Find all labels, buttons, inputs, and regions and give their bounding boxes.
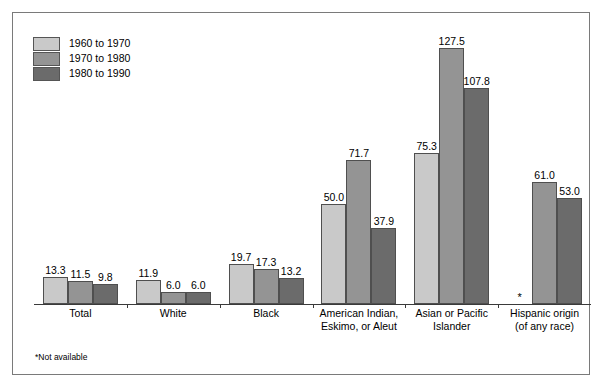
category-label: White: [127, 307, 220, 332]
axis-tick: [498, 304, 499, 308]
bar[interactable]: [439, 48, 464, 304]
category-label-line: White: [127, 307, 220, 320]
bar-slot: 6.0: [186, 33, 211, 304]
bar-groups: 13.311.59.811.96.06.019.717.313.250.071.…: [34, 33, 591, 304]
bar-slot: 127.5: [439, 33, 464, 304]
not-available-marker: *: [517, 292, 521, 303]
bar-slot: 6.0: [161, 33, 186, 304]
bar-value-label: 6.0: [191, 280, 206, 291]
bar-value-label: 127.5: [439, 36, 465, 47]
bar-slot: 71.7: [346, 33, 371, 304]
axis-tick: [313, 304, 314, 308]
bar-slot: *: [507, 33, 532, 304]
bar-slot: 9.8: [93, 33, 118, 304]
bar[interactable]: [464, 88, 489, 304]
category-label-line: Total: [34, 307, 127, 320]
bar[interactable]: [346, 160, 371, 304]
bar-slot: 37.9: [371, 33, 396, 304]
bar[interactable]: [279, 278, 304, 304]
bar-slot: 13.3: [43, 33, 68, 304]
bar-group: 19.717.313.2: [220, 33, 313, 304]
bar[interactable]: [532, 182, 557, 304]
bar[interactable]: [161, 292, 186, 304]
bar-slot: 50.0: [321, 33, 346, 304]
bar[interactable]: [229, 264, 254, 304]
bar[interactable]: [43, 277, 68, 304]
bar-value-label: 50.0: [324, 192, 344, 203]
bar-group: 50.071.737.9: [312, 33, 405, 304]
category-label: Total: [34, 307, 127, 332]
bar-value-label: 11.5: [71, 269, 91, 280]
bar[interactable]: [321, 204, 346, 304]
bar[interactable]: [93, 284, 118, 304]
category-label-line: Islander: [405, 320, 498, 333]
bar-slot: 61.0: [532, 33, 557, 304]
category-label: Hispanic origin(of any race): [498, 307, 591, 332]
bar[interactable]: [68, 281, 93, 304]
category-label: Black: [220, 307, 313, 332]
bar-slot: 107.8: [464, 33, 489, 304]
bar-value-label: 37.9: [374, 216, 394, 227]
chart-frame: 1960 to 1970 1970 to 1980 1980 to 1990 1…: [12, 12, 590, 375]
bar[interactable]: [414, 153, 439, 304]
bar[interactable]: [557, 198, 582, 304]
chart-footnote: *Not available: [35, 353, 87, 362]
category-label-line: Asian or Pacific: [405, 307, 498, 320]
category-label: American Indian,Eskimo, or Aleut: [312, 307, 405, 332]
category-label-line: Black: [220, 307, 313, 320]
bar-group: 11.96.06.0: [127, 33, 220, 304]
bar-slot: 53.0: [557, 33, 582, 304]
bar-value-label: 107.8: [464, 76, 490, 87]
bar-slot: 17.3: [254, 33, 279, 304]
bar-value-label: 6.0: [166, 280, 181, 291]
axis-tick: [220, 304, 221, 308]
category-label-line: Eskimo, or Aleut: [312, 320, 405, 333]
axis-tick: [127, 304, 128, 308]
category-label: Asian or PacificIslander: [405, 307, 498, 332]
category-label-line: (of any race): [498, 320, 591, 333]
axis-tick: [405, 304, 406, 308]
bar-value-label: 13.3: [45, 265, 65, 276]
bar-value-label: 75.3: [417, 141, 437, 152]
bar-slot: 13.2: [279, 33, 304, 304]
bar-value-label: 19.7: [231, 252, 251, 263]
bar-value-label: 9.8: [98, 272, 113, 283]
bar-value-label: 53.0: [559, 186, 579, 197]
bar-value-label: 71.7: [349, 148, 369, 159]
bar-slot: 75.3: [414, 33, 439, 304]
bar-slot: 11.5: [68, 33, 93, 304]
category-label-line: Hispanic origin: [498, 307, 591, 320]
bar-slot: 11.9: [136, 33, 161, 304]
bar[interactable]: [254, 269, 279, 304]
bar-value-label: 61.0: [534, 170, 554, 181]
bar-group: 75.3127.5107.8: [405, 33, 498, 304]
category-label-line: American Indian,: [312, 307, 405, 320]
bar-value-label: 17.3: [256, 257, 276, 268]
bar[interactable]: [186, 292, 211, 304]
bar-group: *61.053.0: [498, 33, 591, 304]
bar-slot: 19.7: [229, 33, 254, 304]
bar-value-label: 11.9: [138, 268, 158, 279]
category-axis-labels: TotalWhiteBlackAmerican Indian,Eskimo, o…: [34, 307, 591, 332]
bar[interactable]: [371, 228, 396, 304]
bar[interactable]: [136, 280, 161, 304]
bar-group: 13.311.59.8: [34, 33, 127, 304]
bar-value-label: 13.2: [281, 266, 301, 277]
